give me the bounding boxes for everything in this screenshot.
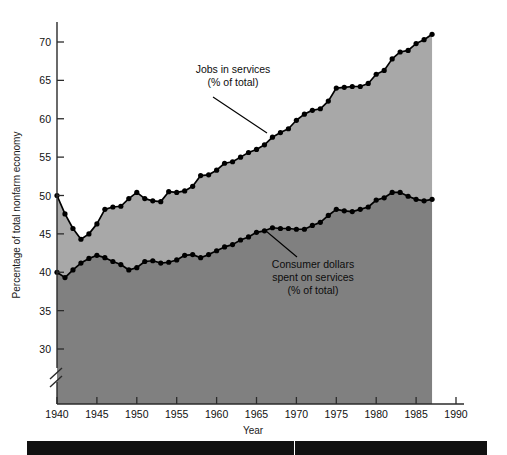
data-point	[86, 231, 91, 236]
data-point	[110, 204, 115, 209]
chart-figure: 303540455055606570 194019451950195519601…	[0, 0, 507, 455]
y-tick-label: 40	[39, 266, 51, 278]
data-point	[421, 198, 426, 203]
data-point	[150, 258, 155, 263]
data-point	[310, 108, 315, 113]
consumer-annotation-line1: Consumer dollars	[272, 258, 354, 270]
x-tick-label: 1945	[85, 408, 109, 420]
data-point	[230, 159, 235, 164]
data-point	[174, 257, 179, 262]
data-point	[190, 252, 195, 257]
data-point	[254, 230, 259, 235]
services-economy-area-chart: 303540455055606570 194019451950195519601…	[0, 0, 507, 455]
footer-band-divider	[294, 441, 295, 455]
data-point	[254, 147, 259, 152]
x-tick-label: 1985	[404, 408, 428, 420]
y-tick-label: 55	[39, 151, 51, 163]
data-point	[166, 260, 171, 265]
y-tick-label: 45	[39, 228, 51, 240]
data-point	[382, 68, 387, 73]
data-point	[326, 99, 331, 104]
data-point	[374, 72, 379, 77]
x-tick-label: 1940	[45, 408, 69, 420]
data-point	[126, 196, 131, 201]
data-point	[414, 197, 419, 202]
data-point	[78, 260, 83, 265]
data-point	[246, 234, 251, 239]
data-point	[398, 190, 403, 195]
data-point	[366, 204, 371, 209]
data-point	[86, 256, 91, 261]
data-point	[310, 223, 315, 228]
y-axis-title: Percentage of total nonfarm economy	[11, 132, 22, 299]
data-point	[126, 267, 131, 272]
data-point	[421, 37, 426, 42]
data-point	[350, 209, 355, 214]
footer-black-band	[27, 441, 487, 455]
data-point	[142, 259, 147, 264]
data-point	[366, 81, 371, 86]
data-point	[334, 207, 339, 212]
data-point	[406, 48, 411, 53]
data-point	[238, 155, 243, 160]
y-tick-label: 35	[39, 305, 51, 317]
data-point	[150, 198, 155, 203]
data-point	[134, 265, 139, 270]
consumer-annotation-line3: (% of total)	[288, 284, 339, 296]
data-point	[358, 207, 363, 212]
data-point	[94, 221, 99, 226]
data-point	[70, 267, 75, 272]
y-tick-label: 65	[39, 74, 51, 86]
data-point	[270, 225, 275, 230]
x-tick-label: 1990	[444, 408, 468, 420]
data-point	[286, 226, 291, 231]
data-point	[286, 126, 291, 131]
jobs-annotation-line1: Jobs in services	[196, 63, 271, 75]
y-tick-label: 70	[39, 36, 51, 48]
x-tick-label: 1950	[125, 408, 149, 420]
consumer-annotation-line2: spent on services	[272, 271, 354, 283]
x-tick-label: 1960	[205, 408, 229, 420]
data-point	[206, 172, 211, 177]
data-point	[206, 252, 211, 257]
data-point	[182, 253, 187, 258]
data-point	[358, 84, 363, 89]
x-axis-title: Year	[243, 425, 264, 436]
x-tick-label: 1970	[285, 408, 309, 420]
data-point	[70, 226, 75, 231]
data-point	[262, 142, 267, 147]
data-point	[134, 190, 139, 195]
data-point	[278, 130, 283, 135]
jobs-annotation-group: Jobs in services (% of total)	[196, 63, 271, 133]
data-point	[198, 255, 203, 260]
data-point	[342, 85, 347, 90]
data-point	[278, 226, 283, 231]
data-point	[429, 32, 434, 37]
y-tick-label: 30	[39, 343, 51, 355]
data-point	[350, 84, 355, 89]
data-point	[318, 220, 323, 225]
data-point	[214, 248, 219, 253]
data-point	[398, 49, 403, 54]
y-tick-label: 50	[39, 190, 51, 202]
data-point	[374, 198, 379, 203]
data-point	[182, 188, 187, 193]
data-point	[406, 194, 411, 199]
data-point	[118, 262, 123, 267]
y-tick-label: 60	[39, 113, 51, 125]
data-point	[294, 118, 299, 123]
data-point	[246, 150, 251, 155]
data-point	[230, 242, 235, 247]
data-point	[326, 213, 331, 218]
data-point	[62, 211, 67, 216]
data-point	[222, 161, 227, 166]
data-point	[174, 190, 179, 195]
data-point	[429, 197, 434, 202]
x-tick-label: 1975	[325, 408, 349, 420]
data-point	[382, 195, 387, 200]
data-point	[214, 168, 219, 173]
data-point	[158, 199, 163, 204]
data-point	[318, 106, 323, 111]
data-point	[198, 173, 203, 178]
data-point	[334, 85, 339, 90]
